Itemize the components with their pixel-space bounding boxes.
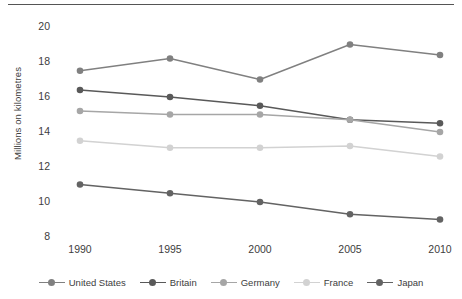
legend-dot bbox=[220, 279, 227, 286]
legend-dot bbox=[303, 279, 310, 286]
line-chart-figure: Millions on kilometres 8101214161820 199… bbox=[0, 0, 462, 299]
legend-label: Japan bbox=[397, 277, 423, 288]
data-point bbox=[437, 129, 444, 136]
data-point bbox=[347, 211, 354, 218]
series-france bbox=[77, 137, 444, 159]
data-point bbox=[77, 181, 84, 188]
data-point bbox=[77, 67, 84, 74]
data-point bbox=[77, 87, 84, 94]
legend-dot bbox=[149, 279, 156, 286]
legend-marker-icon bbox=[39, 278, 65, 287]
legend-item-france[interactable]: France bbox=[294, 277, 354, 288]
data-point bbox=[257, 76, 264, 83]
data-point bbox=[77, 108, 84, 115]
data-point bbox=[437, 52, 444, 59]
series-britain bbox=[77, 87, 444, 127]
legend-label: Britain bbox=[170, 277, 197, 288]
data-point bbox=[257, 102, 264, 109]
legend-marker-icon bbox=[367, 278, 393, 287]
data-point bbox=[347, 143, 354, 150]
data-point bbox=[257, 144, 264, 151]
legend-item-united-states[interactable]: United States bbox=[39, 277, 126, 288]
chart-legend: United StatesBritainGermanyFranceJapan bbox=[0, 272, 462, 292]
legend-dot bbox=[48, 279, 55, 286]
data-point bbox=[167, 94, 174, 101]
data-point bbox=[257, 199, 264, 206]
data-point bbox=[77, 137, 84, 144]
data-point bbox=[167, 111, 174, 118]
legend-label: France bbox=[324, 277, 354, 288]
legend-marker-icon bbox=[294, 278, 320, 287]
series-japan bbox=[77, 181, 444, 223]
plot-area: Millions on kilometres 8101214161820 199… bbox=[0, 0, 462, 262]
data-point bbox=[347, 41, 354, 48]
series-plot-svg bbox=[0, 0, 462, 262]
data-point bbox=[167, 144, 174, 151]
data-point bbox=[437, 153, 444, 160]
legend-item-japan[interactable]: Japan bbox=[367, 277, 423, 288]
legend-label: Germany bbox=[241, 277, 280, 288]
legend-marker-icon bbox=[140, 278, 166, 287]
data-point bbox=[347, 116, 354, 123]
data-point bbox=[437, 216, 444, 223]
legend-label: United States bbox=[69, 277, 126, 288]
data-point bbox=[257, 111, 264, 118]
series-united-states bbox=[77, 41, 444, 83]
series-line bbox=[80, 45, 440, 80]
data-point bbox=[167, 190, 174, 197]
legend-dot bbox=[376, 279, 383, 286]
legend-marker-icon bbox=[211, 278, 237, 287]
legend-item-germany[interactable]: Germany bbox=[211, 277, 280, 288]
data-point bbox=[167, 55, 174, 62]
data-point bbox=[437, 120, 444, 127]
legend-item-britain[interactable]: Britain bbox=[140, 277, 197, 288]
